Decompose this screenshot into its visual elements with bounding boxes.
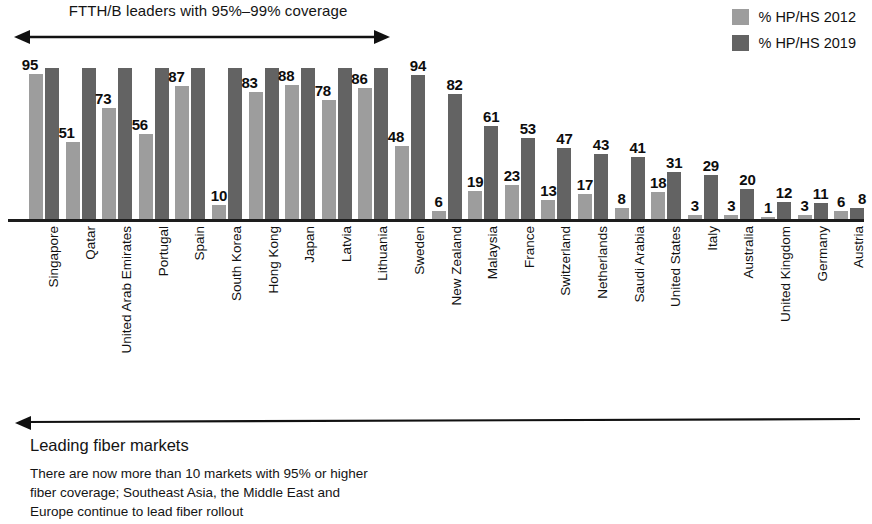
x-axis-baseline [8, 219, 864, 222]
bottom-annotation-title: Leading fiber markets [30, 436, 189, 455]
x-axis-label: South Korea [229, 226, 244, 301]
legend-label-2019: % HP/HS 2019 [758, 35, 856, 51]
bar-group: 841 [615, 60, 645, 220]
x-axis-label: Hong Kong [266, 226, 281, 294]
bar-2012[interactable] [505, 185, 519, 220]
x-axis-label: United Arab Emirates [119, 226, 134, 354]
left-arrow-icon [14, 414, 862, 434]
bar-2012[interactable] [468, 191, 482, 220]
bar-groups: 9551735687108388788648946821961235313471… [14, 60, 858, 220]
bar-group: 4894 [395, 60, 425, 220]
legend-label-2012: % HP/HS 2012 [758, 9, 856, 25]
bar-value-label-2019: 47 [550, 130, 578, 147]
bar-group: 682 [432, 60, 462, 220]
bar-value-label-2019: 31 [660, 154, 688, 171]
legend-swatch-icon [732, 35, 749, 51]
bar-value-label-2019: 8 [848, 190, 872, 207]
bar-group: 87 [175, 60, 205, 220]
legend-item-2019[interactable]: % HP/HS 2019 [732, 32, 856, 54]
bar-group: 1961 [468, 60, 498, 220]
bar-group: 83 [249, 60, 279, 220]
bar-value-label-2012: 19 [461, 173, 489, 190]
bar-2012[interactable] [358, 88, 372, 220]
bar-2012[interactable] [66, 142, 80, 220]
bar-2012[interactable] [541, 200, 555, 220]
bar-value-label-2012: 3 [717, 197, 745, 214]
bar-2019[interactable] [631, 157, 645, 220]
bar-2012[interactable] [29, 74, 43, 220]
bar-2019[interactable] [45, 68, 59, 220]
bar-group: 1743 [578, 60, 608, 220]
legend: % HP/HS 2012 % HP/HS 2019 [732, 6, 856, 58]
bar-2019[interactable] [338, 68, 352, 220]
bar-value-label-2012: 73 [89, 90, 117, 107]
top-annotation-label: FTTH/B leaders with 95%–99% coverage [18, 2, 398, 19]
x-axis-label: Latvia [339, 226, 354, 262]
bar-value-label-2012: 51 [53, 124, 81, 141]
x-axis-category-labels: SingaporeQatarUnited Arab EmiratesPortug… [0, 226, 872, 396]
bar-value-label-2012: 48 [382, 128, 410, 145]
bar-group: 1831 [651, 60, 681, 220]
bottom-annotation-body-line-2: fiber coverage; Southeast Asia, the Midd… [30, 483, 368, 502]
bar-group: 73 [102, 60, 132, 220]
bar-value-label-2012: 86 [345, 70, 373, 87]
legend-swatch-icon [732, 9, 749, 25]
bar-2012[interactable] [212, 205, 226, 220]
bar-group: 311 [798, 60, 828, 220]
bar-value-label-2019: 82 [441, 76, 469, 93]
x-axis-label: New Zealand [449, 226, 464, 306]
bottom-annotation-body-line-3: Europe continue to lead fiber rollout [30, 502, 368, 521]
bar-value-label-2012: 3 [681, 197, 709, 214]
x-axis-label: Singapore [46, 226, 61, 288]
x-axis-label: Italy [705, 226, 720, 251]
bar-value-label-2012: 88 [272, 67, 300, 84]
bar-value-label-2012: 78 [309, 82, 337, 99]
bar-value-label-2019: 43 [587, 136, 615, 153]
bar-2019[interactable] [411, 75, 425, 220]
bar-2012[interactable] [322, 100, 336, 220]
bar-2012[interactable] [175, 86, 189, 220]
x-axis-label: Switzerland [558, 226, 573, 296]
bar-group: 320 [724, 60, 754, 220]
bar-2012[interactable] [102, 108, 116, 220]
bar-2012[interactable] [651, 192, 665, 220]
bar-value-label-2012: 87 [162, 68, 190, 85]
x-axis-label: Sweden [412, 226, 427, 275]
double-headed-arrow-icon [12, 26, 392, 48]
bar-value-label-2019: 61 [477, 108, 505, 125]
bar-2019[interactable] [265, 68, 279, 220]
bar-2019[interactable] [155, 68, 169, 220]
bottom-annotation-body: There are now more than 10 markets with … [30, 464, 368, 521]
x-axis-label: Qatar [83, 226, 98, 260]
legend-item-2012[interactable]: % HP/HS 2012 [732, 6, 856, 28]
bar-value-label-2012: 17 [571, 176, 599, 193]
x-axis-label: Malaysia [485, 226, 500, 279]
bar-group: 51 [66, 60, 96, 220]
bar-group: 329 [688, 60, 718, 220]
bar-2019[interactable] [191, 68, 205, 220]
x-axis-label: Saudi Arabia [632, 226, 647, 303]
bar-value-label-2012: 56 [126, 116, 154, 133]
bar-value-label-2012: 23 [498, 167, 526, 184]
bar-value-label-2019: 53 [514, 120, 542, 137]
bar-2012[interactable] [139, 134, 153, 220]
x-axis-label: United States [668, 226, 683, 307]
bar-value-label-2012: 10 [205, 187, 233, 204]
chart-page: FTTH/B leaders with 95%–99% coverage % H… [0, 0, 872, 524]
bar-2019[interactable] [118, 68, 132, 220]
x-axis-label: Lithuania [375, 226, 390, 281]
bar-2012[interactable] [249, 92, 263, 220]
x-axis-label: Spain [192, 226, 207, 261]
bar-value-label-2019: 94 [404, 57, 432, 74]
bar-value-label-2019: 29 [697, 157, 725, 174]
bar-value-label-2012: 83 [236, 74, 264, 91]
bar-2012[interactable] [285, 85, 299, 220]
bar-2012[interactable] [578, 194, 592, 220]
bar-value-label-2012: 1 [754, 199, 782, 216]
bottom-annotation: Leading fiber markets There are now more… [0, 414, 872, 524]
bar-value-label-2019: 41 [624, 139, 652, 156]
x-axis-label: Netherlands [595, 226, 610, 299]
bar-2012[interactable] [395, 146, 409, 220]
bar-value-label-2012: 6 [425, 193, 453, 210]
x-axis-label: United Kingdom [778, 226, 793, 322]
